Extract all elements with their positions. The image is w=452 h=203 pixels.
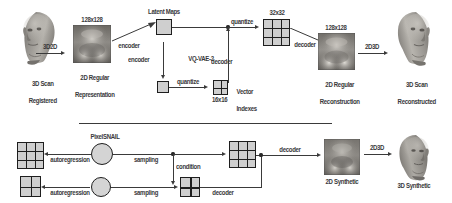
arrow-2d3d-top-label: 2D3D — [360, 43, 384, 51]
head-mesh-left-facing-icon — [18, 10, 62, 66]
decoder-inner-line — [200, 187, 262, 188]
condition-line — [173, 154, 174, 182]
encoder-bottom-head — [161, 75, 165, 79]
condition-head — [171, 181, 175, 185]
sampling-top-line — [113, 154, 173, 155]
diagram-canvas: 3D Scan Registered 3D2D 128x128 — [0, 0, 452, 203]
autoregression-bottom-label: autoregression — [48, 189, 93, 197]
codes-top-size: 32x32 — [262, 9, 293, 17]
synthetic-2d-caption: 2D Synthetic — [318, 178, 366, 186]
encoder-bottom-label: encoder — [128, 56, 157, 64]
decoder-top-label: decoder — [290, 41, 319, 49]
decoder-side-label: decoder — [211, 58, 240, 66]
quantize-bottom-line — [169, 87, 205, 88]
reconstruction-caption: 2D Regular Reconstruction — [311, 73, 363, 114]
quantize-top-line — [228, 27, 256, 28]
latent-top-to-junction — [172, 27, 228, 28]
sampling-to-codes-line — [173, 154, 223, 155]
pixelsnail-node-top-icon — [91, 143, 113, 165]
latent-maps-label: Latent Maps — [143, 8, 186, 16]
decoder-side-line — [228, 27, 229, 83]
uv-texture-map-icon — [73, 25, 111, 63]
head-mesh-right-facing-icon — [392, 10, 436, 68]
sampling-top-label: sampling — [129, 156, 163, 164]
decoder-out-label: decoder — [275, 146, 306, 154]
arrow-3d2d-label: 3D2D — [38, 43, 62, 51]
quantize-bottom-head — [204, 85, 208, 89]
decoder-out-head — [317, 153, 321, 157]
autoregression-top-line — [47, 154, 91, 155]
encoder-top-arrow — [112, 20, 158, 42]
arrow-2d3d-top-line — [358, 53, 385, 54]
pixelsnail-node-bottom-icon — [91, 177, 111, 197]
index-grid-3x3-icon — [229, 141, 256, 168]
encoder-top-label: encoder — [114, 42, 143, 50]
pixelsnail-label: PixelSNAIL — [84, 133, 125, 141]
sampling-to-codes-head — [222, 152, 226, 156]
sampling-bottom-line — [111, 187, 175, 188]
synthetic-3d-caption: 3D Synthetic — [389, 182, 439, 190]
index-grid-3x3-icon — [263, 19, 290, 46]
arrow-2d3d-bottom-label: 2D3D — [365, 144, 389, 152]
decoder-side-head — [226, 27, 230, 31]
index-grid-2x2-icon — [180, 177, 200, 197]
regular-representation-caption: 2D Regular Representation — [68, 66, 116, 107]
autoregression-top-label: autoregression — [48, 156, 93, 164]
index-grid-2x2-icon — [213, 80, 228, 95]
arrow-2d3d-top-head — [384, 51, 388, 55]
uv-texture-map-icon — [324, 139, 360, 175]
quantize-bottom-label: quantize — [174, 78, 202, 86]
condition-label: condition — [176, 163, 207, 171]
latent-square-top-icon — [156, 19, 172, 35]
index-grid-3x3-icon — [17, 142, 44, 169]
decoder-out-line — [256, 155, 318, 156]
encoder-bottom-line — [163, 42, 164, 76]
uv-texture-map-icon — [318, 33, 355, 70]
autoregression-bottom-line — [44, 187, 90, 188]
quantize-top-label: quantize — [228, 18, 256, 26]
decoder-inner-riser — [261, 155, 262, 188]
autoregression-bottom-head — [41, 185, 45, 189]
vector-indexes-size: 16x16 — [212, 96, 236, 104]
latent-square-bottom-icon — [157, 81, 169, 93]
scan-registered-caption: 3D Scan Registered — [13, 72, 66, 113]
reconstruction-size: 128x128 — [317, 24, 355, 32]
arrow-3d2d-line — [36, 53, 62, 54]
index-grid-2x2-icon — [20, 176, 41, 197]
sampling-bottom-label: sampling — [129, 189, 163, 197]
decoder-inner-label: decoder — [208, 189, 239, 197]
head-mesh-right-facing-icon — [394, 133, 434, 181]
sampling-bottom-head — [174, 185, 178, 189]
decoder-out-junction-dot — [259, 153, 262, 156]
section-divider — [79, 123, 332, 124]
autoregression-top-head — [44, 152, 48, 156]
scan-reconstructed-caption: 3D Scan Reconstructed — [386, 73, 443, 114]
arrow-2d3d-bottom-line — [364, 154, 389, 155]
regular-representation-size: 128x128 — [73, 16, 111, 24]
